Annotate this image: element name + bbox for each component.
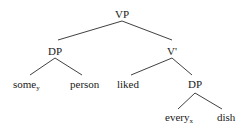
node-vp: VP (115, 8, 129, 20)
node-some: somey (13, 78, 40, 92)
node-every: everyx (165, 111, 193, 125)
node-dish: dish (217, 111, 236, 123)
edge-vbar-liked (131, 58, 172, 75)
node-dp-object: DP (188, 78, 202, 90)
edge-dp-some (30, 58, 55, 75)
edge-vp-vbar (122, 21, 172, 40)
syntax-tree: VP DP V' somey person liked DP everyx di… (0, 0, 246, 131)
node-dp-subject: DP (48, 45, 62, 57)
node-person: person (70, 78, 100, 90)
node-liked: liked (117, 78, 139, 90)
edge-dp-every (178, 93, 195, 109)
edge-vbar-dp (172, 58, 192, 75)
edge-vp-dp (58, 21, 122, 40)
node-vbar: V' (167, 45, 177, 57)
edge-dp-person (55, 58, 82, 75)
edge-dp-dish (195, 93, 222, 109)
